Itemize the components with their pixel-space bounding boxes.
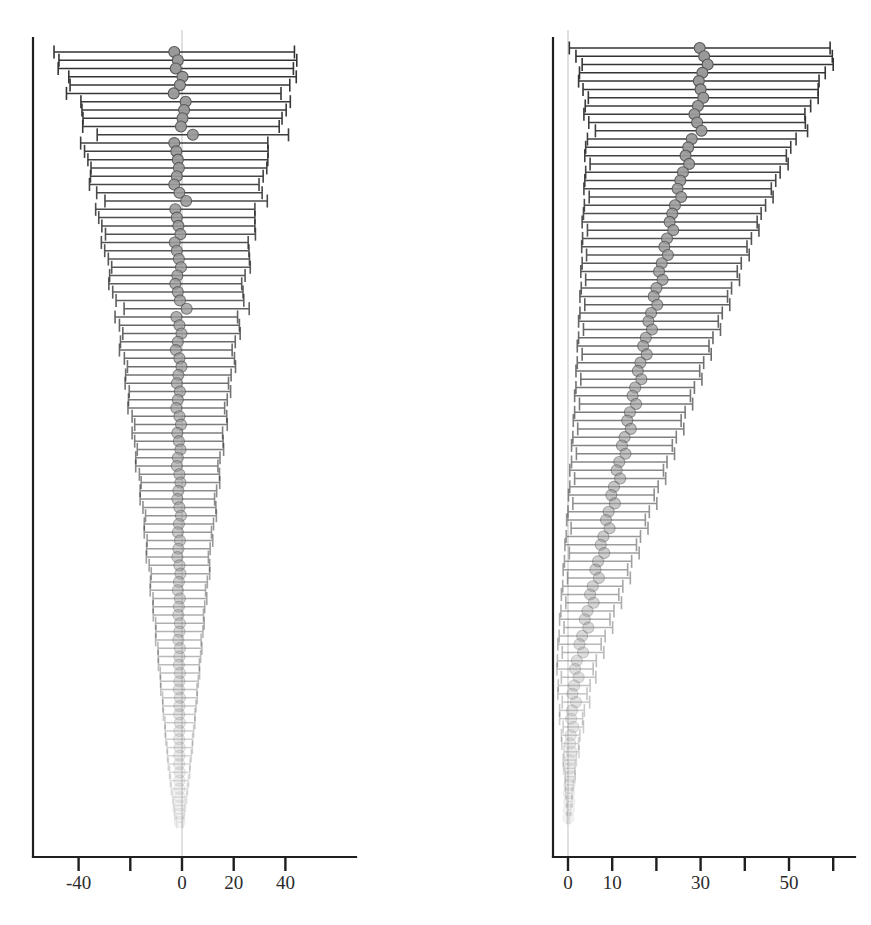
x-axis-tick-label: 50 [780,872,799,893]
x-axis-tick-label: 40 [276,872,295,893]
point-estimate-marker [181,303,192,314]
point-estimate-markers [168,47,198,828]
point-estimate-marker [168,88,179,99]
point-estimate-marker [696,125,707,136]
panel-right-canvas: 0103050 [440,0,871,925]
x-axis-tick-label: 10 [603,872,622,893]
point-estimate-marker [181,196,192,207]
x-axis-tick-label: 30 [691,872,710,893]
point-estimate-marker [175,121,186,132]
panel-left-canvas: -4002040 [0,0,440,925]
point-estimate-marker [187,129,198,140]
panel-right: 0103050 [440,0,871,925]
point-estimate-marker [563,813,574,824]
x-axis-tick-label: 0 [177,872,187,893]
panel-left: -4002040 [0,0,440,925]
x-axis-tick-label: 20 [224,872,243,893]
interval-rows [557,42,833,825]
figure-caterpillar-plots: -4002040 0103050 [0,0,871,925]
x-axis-tick-label: -40 [66,872,91,893]
x-axis-tick-label: 0 [563,872,573,893]
point-estimate-marker [174,817,185,828]
